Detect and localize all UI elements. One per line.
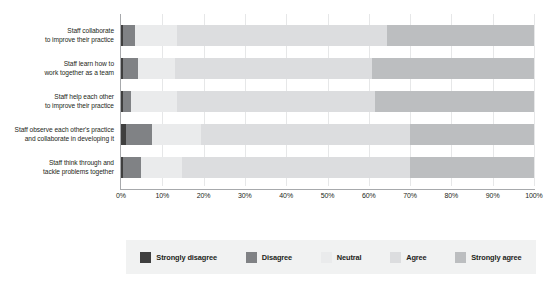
- category-label-line: work together as a team: [0, 69, 114, 77]
- legend: Strongly disagreeDisagreeNeutralAgreeStr…: [126, 240, 536, 274]
- x-tick-label-80pct: 80%: [431, 192, 471, 199]
- legend-label: Strongly agree: [471, 253, 521, 262]
- bar-segment-strongly-agree: [387, 25, 534, 46]
- chart-title-strip: [0, 0, 548, 12]
- bar-segment-neutral: [152, 124, 201, 145]
- category-label-line: and collaborate in developing it: [0, 135, 114, 143]
- bar-segment-disagree: [123, 157, 141, 178]
- legend-item-disagree[interactable]: Disagree: [246, 252, 292, 263]
- category-label-line: Staff observe each other's practice: [0, 126, 114, 134]
- x-tick-label-20pct: 20%: [184, 192, 224, 199]
- bar-segment-neutral: [141, 157, 182, 178]
- bar-row-1: [121, 25, 534, 46]
- category-label-4: Staff observe each other's practiceand c…: [0, 126, 114, 143]
- x-tick-label-0pct: 0%: [101, 192, 141, 199]
- legend-item-strongly-agree[interactable]: Strongly agree: [455, 252, 521, 263]
- bars-container: [121, 14, 534, 186]
- x-tick-label-10pct: 10%: [142, 192, 182, 199]
- bar-segment-agree: [177, 25, 387, 46]
- category-label-line: Staff help each other: [0, 93, 114, 101]
- bar-segment-disagree: [126, 124, 152, 145]
- legend-item-neutral[interactable]: Neutral: [321, 252, 362, 263]
- x-tick-label-70pct: 70%: [390, 192, 430, 199]
- bar-segment-agree: [177, 91, 375, 112]
- bar-row-4: [121, 124, 534, 145]
- x-tick-label-40pct: 40%: [266, 192, 306, 199]
- bar-row-3: [121, 91, 534, 112]
- legend-swatch-icon: [321, 252, 332, 263]
- legend-swatch-icon: [246, 252, 257, 263]
- legend-label: Agree: [406, 253, 426, 262]
- category-label-2: Staff learn how towork together as a tea…: [0, 60, 114, 77]
- bar-row-2: [121, 58, 534, 79]
- x-tick-label-30pct: 30%: [225, 192, 265, 199]
- category-label-3: Staff help each otherto improve their pr…: [0, 93, 114, 110]
- x-tick-label-50pct: 50%: [308, 192, 348, 199]
- plot-area: Staff collaborateto improve their practi…: [0, 14, 548, 192]
- gridline-100pct: [534, 14, 535, 186]
- bar-segment-agree: [201, 124, 410, 145]
- legend-item-strongly-disagree[interactable]: Strongly disagree: [140, 252, 217, 263]
- legend-swatch-icon: [140, 252, 151, 263]
- bar-segment-disagree: [123, 58, 138, 79]
- bar-segment-neutral: [131, 91, 177, 112]
- bar-segment-strongly-agree: [410, 124, 534, 145]
- bar-segment-agree: [175, 58, 372, 79]
- x-axis-tick-labels: 0%10%20%30%40%50%60%70%80%90%100%: [0, 192, 548, 208]
- category-label-line: Staff collaborate: [0, 27, 114, 35]
- category-label-line: to improve their practice: [0, 102, 114, 110]
- bar-segment-neutral: [138, 58, 175, 79]
- legend-item-agree[interactable]: Agree: [390, 252, 426, 263]
- legend-label: Strongly disagree: [156, 253, 217, 262]
- category-label-line: Staff think through and: [0, 159, 114, 167]
- bar-segment-neutral: [135, 25, 177, 46]
- bar-segment-strongly-agree: [372, 58, 534, 79]
- category-axis-labels: Staff collaborateto improve their practi…: [0, 14, 118, 186]
- bar-segment-agree: [182, 157, 410, 178]
- legend-label: Disagree: [262, 253, 292, 262]
- bar-segment-disagree: [123, 91, 131, 112]
- x-axis-line: [120, 189, 535, 190]
- category-label-1: Staff collaborateto improve their practi…: [0, 27, 114, 44]
- bar-segment-strongly-agree: [410, 157, 534, 178]
- bar-segment-disagree: [123, 25, 135, 46]
- category-label-line: Staff learn how to: [0, 60, 114, 68]
- category-label-line: tackle problems together: [0, 168, 114, 176]
- x-tick-label-90pct: 90%: [473, 192, 513, 199]
- stacked-bar-chart: Staff collaborateto improve their practi…: [0, 0, 548, 284]
- x-tick-label-60pct: 60%: [349, 192, 389, 199]
- bar-row-5: [121, 157, 534, 178]
- bar-segment-strongly-agree: [375, 91, 534, 112]
- category-label-line: to improve their practice: [0, 36, 114, 44]
- category-label-5: Staff think through andtackle problems t…: [0, 159, 114, 176]
- legend-swatch-icon: [455, 252, 466, 263]
- x-tick-label-100pct: 100%: [514, 192, 548, 199]
- legend-swatch-icon: [390, 252, 401, 263]
- legend-label: Neutral: [337, 253, 362, 262]
